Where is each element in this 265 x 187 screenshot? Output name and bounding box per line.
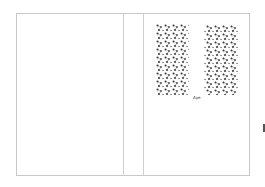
- back-cover-panel[interactable]: [17, 14, 123, 175]
- scroll-handle[interactable]: [263, 124, 265, 132]
- right-floral-pattern-icon[interactable]: [204, 24, 238, 95]
- spine-panel[interactable]: [124, 14, 143, 175]
- left-floral-pattern-icon[interactable]: [156, 24, 189, 95]
- signature-text[interactable]: Ауе: [193, 95, 201, 100]
